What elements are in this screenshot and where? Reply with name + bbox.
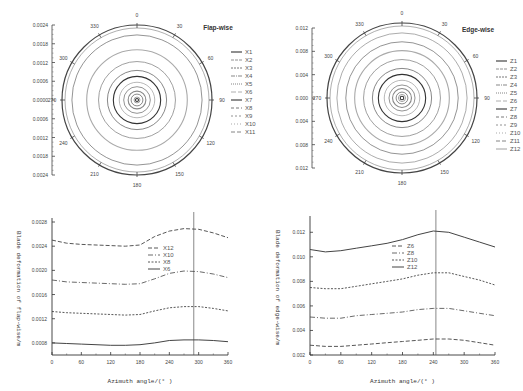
radial-tick-label: 0.0006 bbox=[33, 116, 49, 122]
radial-tick-label: 0.004 bbox=[295, 72, 308, 78]
series-ring-Z3 bbox=[396, 92, 408, 104]
series-line-X10 bbox=[52, 271, 228, 284]
legend-label: X8 bbox=[163, 259, 171, 265]
angle-tick-label: 210 bbox=[355, 169, 364, 175]
series-ring-Z1 bbox=[400, 96, 404, 100]
x-tick-label: 60 bbox=[79, 359, 85, 365]
angle-tick-label: 300 bbox=[324, 53, 333, 59]
chart-title: Edge-wise bbox=[462, 26, 495, 34]
legend-label: Z6 bbox=[510, 98, 518, 104]
series-ring-Z7 bbox=[378, 74, 425, 121]
angle-tick-label: 60 bbox=[473, 53, 479, 59]
legend-label: X12 bbox=[163, 245, 174, 251]
y-tick-label: 0.008 bbox=[292, 278, 305, 284]
series-ring-Z4 bbox=[393, 89, 412, 108]
legend-label: Z11 bbox=[510, 138, 521, 144]
radial-tick-label: 0.0012 bbox=[33, 135, 49, 141]
legend: X12X10X8X6 bbox=[148, 245, 174, 272]
radial-tick-label: 0.008 bbox=[295, 48, 308, 54]
legend: Z6Z8Z10Z12 bbox=[392, 243, 418, 270]
legend-label: Z10 bbox=[407, 257, 418, 263]
legend-label: X11 bbox=[245, 129, 256, 135]
y-tick-label: 0.0012 bbox=[32, 316, 48, 322]
legend: X1X2X3X4X5X6X7X8X9X10X11 bbox=[231, 49, 256, 135]
angle-tick-label: 210 bbox=[90, 171, 99, 177]
series-ring-X7 bbox=[113, 76, 160, 123]
angle-tick-label: 0 bbox=[136, 12, 139, 18]
angle-tick-label: 150 bbox=[440, 169, 449, 175]
radial-tick-label: 0.000 bbox=[295, 95, 308, 101]
series-ring-Z11 bbox=[346, 42, 458, 154]
x-tick-label: 120 bbox=[106, 359, 115, 365]
radial-tick-label: 0.0012 bbox=[33, 60, 49, 66]
legend-label: X1 bbox=[245, 49, 253, 55]
legend-label: X8 bbox=[245, 105, 253, 111]
x-tick-label: 300 bbox=[460, 359, 469, 365]
x-tick-label: 180 bbox=[398, 359, 407, 365]
y-tick-label: 0.010 bbox=[292, 254, 305, 260]
x-tick-label: 120 bbox=[367, 359, 376, 365]
y-tick-label: 0.012 bbox=[292, 229, 305, 235]
x-tick-label: 240 bbox=[165, 359, 174, 365]
angle-tick-label: 30 bbox=[177, 23, 183, 29]
x-tick-label: 0 bbox=[51, 359, 54, 365]
angle-tick-label: 180 bbox=[133, 182, 142, 188]
legend-label: X6 bbox=[245, 89, 253, 95]
y-tick-label: 0.006 bbox=[292, 303, 305, 309]
legend-label: Z8 bbox=[510, 114, 518, 120]
y-axis-label: Blade deformation of edge-wise/m bbox=[274, 230, 281, 346]
radial-tick-label: 0.0000 bbox=[33, 97, 49, 103]
angle-tick-label: 120 bbox=[206, 140, 215, 146]
y-tick-label: 0.004 bbox=[292, 327, 305, 333]
legend-label: X2 bbox=[245, 57, 253, 63]
x-tick-label: 0 bbox=[309, 359, 312, 365]
radial-tick-label: 0.012 bbox=[295, 25, 308, 31]
series-line-Z10 bbox=[310, 273, 495, 289]
x-tick-label: 360 bbox=[224, 359, 233, 365]
legend-label: X10 bbox=[245, 121, 256, 127]
radial-tick-label: 0.0018 bbox=[33, 41, 49, 47]
angle-tick-label: 30 bbox=[442, 21, 448, 27]
angle-tick-label: 180 bbox=[398, 180, 407, 186]
flap-wise-polar-chart: 03060901201501802102402703003300.00240.0… bbox=[33, 12, 257, 188]
series-ring-X3 bbox=[131, 94, 143, 106]
legend: Z1Z2Z3Z4Z5Z6Z7Z8Z9Z10Z11Z12 bbox=[496, 58, 521, 152]
series-line-X8 bbox=[52, 307, 228, 316]
y-axis-label: Blade deformation of flap-wise/m bbox=[15, 231, 22, 347]
angle-tick-label: 120 bbox=[471, 138, 480, 144]
series-ring-X8 bbox=[107, 70, 166, 129]
angle-tick-label: 300 bbox=[59, 55, 68, 61]
series-ring-X10 bbox=[87, 50, 188, 151]
x-tick-label: 180 bbox=[136, 359, 145, 365]
y-tick-label: 0.0024 bbox=[32, 243, 48, 249]
legend-label: Z4 bbox=[510, 82, 518, 88]
legend-label: X4 bbox=[245, 73, 253, 79]
series-line-X6 bbox=[52, 340, 228, 345]
angle-tick-label: 60 bbox=[208, 55, 214, 61]
legend-label: Z8 bbox=[407, 250, 415, 256]
x-axis-label: Azimuth angle/(° ) bbox=[370, 378, 435, 385]
legend-label: Z12 bbox=[407, 264, 418, 270]
polar-frame bbox=[62, 25, 212, 175]
polar-frame-inner bbox=[330, 26, 474, 170]
legend-label: Z2 bbox=[510, 66, 518, 72]
series-line-Z8 bbox=[310, 308, 495, 318]
legend-label: X10 bbox=[163, 252, 174, 258]
x-tick-label: 60 bbox=[338, 359, 344, 365]
figure-canvas: 03060901201501802102402703003300.00240.0… bbox=[0, 0, 523, 391]
angle-tick-label: 330 bbox=[90, 23, 99, 29]
legend-label: X5 bbox=[245, 81, 253, 87]
series-ring-Z12 bbox=[337, 33, 467, 163]
angle-tick-label: 330 bbox=[355, 21, 364, 27]
y-tick-label: 0.0008 bbox=[32, 340, 48, 346]
angle-tick-label: 240 bbox=[59, 140, 68, 146]
x-axis-label: Azimuth angle/(° ) bbox=[108, 378, 173, 385]
series-line-Z12 bbox=[310, 231, 495, 252]
series-ring-Z8 bbox=[372, 68, 431, 127]
series-ring-X6 bbox=[119, 82, 155, 118]
edge-wise-polar-chart: 03060901201501802102402703003300.0120.00… bbox=[295, 10, 521, 186]
legend-label: Z3 bbox=[510, 74, 518, 80]
series-ring-Z6 bbox=[384, 80, 420, 116]
legend-label: Z12 bbox=[510, 146, 521, 152]
y-tick-label: 0.0028 bbox=[32, 219, 48, 225]
